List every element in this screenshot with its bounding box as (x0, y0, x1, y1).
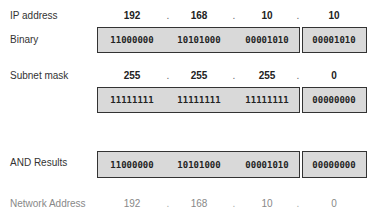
separator-dot: . (293, 198, 303, 209)
separator-dot: . (163, 70, 173, 81)
and-binary-octet-3: 00001010 (237, 160, 297, 170)
mask-octet-2: 255 (179, 70, 219, 81)
and-results-label: AND Results (10, 157, 67, 168)
separator-dot: . (229, 198, 239, 209)
separator-dot: . (293, 70, 303, 81)
and-binary-octet-4: 00000000 (304, 160, 364, 170)
network-octet-1: 192 (112, 198, 152, 209)
mask-binary-octet-1: 11111111 (102, 95, 162, 105)
separator-dot: . (163, 10, 173, 21)
separator-dot: . (293, 10, 303, 21)
mask-binary-octet-2: 11111111 (169, 95, 229, 105)
ip-address-label: IP address (10, 10, 58, 21)
ip-octet-2: 168 (179, 10, 219, 21)
mask-octet-4: 0 (314, 70, 354, 81)
ip-binary-octet-2: 10101000 (169, 35, 229, 45)
and-binary-octet-1: 11000000 (102, 160, 162, 170)
separator-dot: . (229, 70, 239, 81)
ip-octet-1: 192 (112, 10, 152, 21)
separator-dot: . (163, 198, 173, 209)
network-octet-2: 168 (179, 198, 219, 209)
network-octet-3: 10 (247, 198, 287, 209)
ip-binary-octet-4: 00001010 (304, 35, 364, 45)
ip-binary-octet-1: 11000000 (102, 35, 162, 45)
mask-binary-octet-3: 11111111 (237, 95, 297, 105)
network-octet-4: 0 (314, 198, 354, 209)
mask-octet-1: 255 (112, 70, 152, 81)
binary-label: Binary (10, 34, 38, 45)
mask-octet-3: 255 (247, 70, 287, 81)
network-address-label: Network Address (10, 198, 86, 209)
ip-octet-4: 10 (314, 10, 354, 21)
separator-dot: . (229, 10, 239, 21)
subnet-mask-label: Subnet mask (10, 70, 68, 81)
ip-octet-3: 10 (247, 10, 287, 21)
mask-binary-octet-4: 00000000 (304, 95, 364, 105)
and-binary-octet-2: 10101000 (169, 160, 229, 170)
ip-binary-octet-3: 00001010 (237, 35, 297, 45)
